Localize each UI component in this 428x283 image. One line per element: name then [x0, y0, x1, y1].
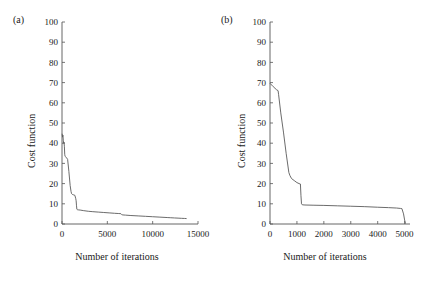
panel-b: (b) Cost function Number of iterations 0…: [214, 0, 428, 283]
y-tick-label: 50: [49, 118, 59, 128]
y-tick-label: 10: [257, 199, 267, 209]
x-tick-label: 10000: [141, 229, 164, 239]
y-tick-label: 30: [257, 159, 267, 169]
y-tick-label: 70: [257, 78, 267, 88]
x-tick-label: 2000: [315, 229, 334, 239]
panel-a: (a) Cost function Number of iterations 0…: [0, 0, 214, 283]
y-tick-label: 50: [257, 118, 267, 128]
x-tick-label: 5000: [396, 229, 415, 239]
y-tick-label: 20: [49, 179, 59, 189]
panel-a-plot: 0102030405060708090100050001000015000: [0, 0, 214, 283]
x-tick-label: 5000: [98, 229, 117, 239]
y-tick-label: 100: [45, 17, 59, 27]
x-tick-label: 0: [60, 229, 65, 239]
x-tick-label: 0: [268, 229, 273, 239]
y-tick-label: 70: [49, 78, 59, 88]
y-tick-label: 80: [49, 58, 59, 68]
x-tick-label: 3000: [342, 229, 361, 239]
y-tick-label: 40: [257, 138, 267, 148]
data-series-line: [62, 134, 186, 218]
x-tick-label: 15000: [187, 229, 210, 239]
y-tick-label: 60: [49, 98, 59, 108]
y-tick-label: 40: [49, 138, 59, 148]
data-series-line: [270, 84, 405, 224]
y-tick-label: 20: [257, 179, 267, 189]
panel-b-plot: 0102030405060708090100010002000300040005…: [214, 0, 428, 283]
y-tick-label: 100: [253, 17, 267, 27]
x-tick-label: 1000: [288, 229, 307, 239]
y-tick-label: 60: [257, 98, 267, 108]
y-tick-label: 80: [257, 58, 267, 68]
y-tick-label: 0: [262, 219, 267, 229]
y-tick-label: 10: [49, 199, 59, 209]
y-tick-label: 30: [49, 159, 59, 169]
figure-container: (a) Cost function Number of iterations 0…: [0, 0, 428, 283]
x-tick-label: 4000: [369, 229, 388, 239]
y-tick-label: 90: [49, 37, 59, 47]
y-tick-label: 0: [54, 219, 59, 229]
y-tick-label: 90: [257, 37, 267, 47]
